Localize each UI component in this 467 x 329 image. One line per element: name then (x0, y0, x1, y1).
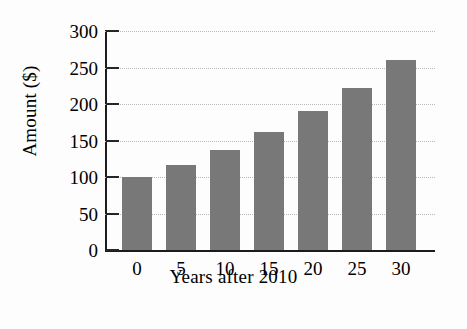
y-axis-tick-label: 0 (56, 241, 98, 260)
y-axis-tick-label: 150 (56, 131, 98, 150)
y-axis-tick-mark (106, 249, 119, 251)
bar (298, 111, 328, 250)
y-axis-tick-mark (106, 67, 119, 69)
y-axis-tick-mark (106, 213, 119, 215)
y-axis-tick-label: 200 (56, 95, 98, 114)
y-axis-tick-mark (106, 140, 119, 142)
bar (254, 132, 284, 250)
bar-chart-figure: Amount ($) 050100150200250300 0510152025… (0, 0, 467, 329)
x-axis-title: Years after 2010 (0, 266, 467, 288)
y-axis-tick-label: 50 (56, 204, 98, 223)
bar (342, 88, 372, 250)
bar (122, 177, 152, 250)
x-axis-line (105, 250, 435, 252)
plot-area: 050100150200250300 051015202530 (105, 31, 435, 250)
y-axis-tick-label: 100 (56, 168, 98, 187)
y-axis-tick-label: 300 (56, 22, 98, 41)
y-axis-title: Amount ($) (19, 21, 41, 201)
bar (166, 165, 196, 250)
y-axis-tick-label: 250 (56, 58, 98, 77)
y-axis-tick-mark (106, 103, 119, 105)
gridline (105, 31, 435, 33)
bar (386, 60, 416, 250)
y-axis-tick-mark (106, 176, 119, 178)
bar (210, 150, 240, 250)
y-axis-tick-mark (106, 30, 119, 32)
